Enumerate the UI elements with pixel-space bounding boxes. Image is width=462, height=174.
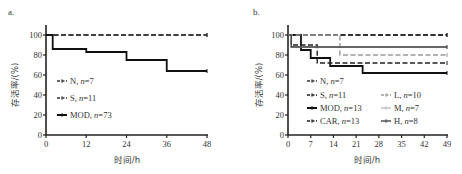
x-tick-label: 12: [82, 139, 91, 149]
legend-label: M, n=7: [394, 103, 419, 113]
legend-label: H, n=8: [394, 116, 418, 126]
y-tick-label: 0: [38, 130, 42, 140]
y-tick-label: 100: [271, 30, 284, 40]
x-tick-label: 14: [329, 139, 338, 149]
legend-item-mod: MOD, n=73: [57, 110, 112, 120]
panel-a-xlabel: 时间/h: [114, 155, 140, 165]
y-tick-label: 0: [280, 130, 284, 140]
x-tick-label: 42: [420, 139, 429, 149]
y-tick-label: 60: [276, 70, 285, 80]
panel-b-legend: N, n=7S, n=11MOD, n=13CAR, n=13L, n=10M,…: [307, 76, 421, 126]
legend-item-mod: MOD, n=13: [307, 103, 362, 113]
legend-item-n: N, n=7: [307, 76, 344, 86]
x-tick-label: 0: [44, 139, 48, 149]
x-tick-label: 28: [375, 139, 384, 149]
x-tick-label: 24: [122, 139, 131, 149]
legend-item-m: M, n=7: [381, 103, 419, 113]
x-tick-label: 0: [286, 139, 290, 149]
y-tick-label: 20: [276, 110, 285, 120]
y-tick-label: 80: [34, 50, 43, 60]
y-tick-label: 100: [29, 30, 42, 40]
x-tick-label: 21: [352, 139, 361, 149]
legend-label: MOD, n=13: [320, 103, 362, 113]
panel-a-series: [46, 33, 207, 73]
legend-label: S, n=11: [70, 93, 96, 103]
legend-item-n: N, n=7: [57, 76, 94, 86]
legend-item-s: S, n=11: [57, 93, 96, 103]
panel-b-series: [288, 33, 447, 75]
legend-item-car: CAR, n=13: [307, 116, 359, 126]
panel-a-survival-chart: a. 存活率/(%) 时间/h 012243648020406080100 N,…: [8, 7, 211, 165]
y-tick-label: 80: [276, 50, 285, 60]
x-tick-label: 36: [163, 139, 172, 149]
legend-label: N, n=7: [320, 76, 344, 86]
series-mod-line: [46, 35, 207, 71]
panel-a-axes: 012243648020406080100: [29, 25, 211, 149]
panel-b-survival-chart: b. 存活率/(%) 时间/h 071421283542490204060801…: [253, 7, 451, 165]
series-mod-line: [288, 35, 447, 73]
legend-item-l: L, n=10: [381, 90, 421, 100]
panel-b-y-axis-title: 存活率/(%): [254, 63, 264, 108]
legend-label: L, n=10: [394, 90, 421, 100]
panel-b-xlabel: 时间/h: [354, 155, 380, 165]
y-tick-label: 60: [34, 70, 43, 80]
legend-label: N, n=7: [70, 76, 94, 86]
y-tick-label: 40: [34, 90, 43, 100]
panel-a-legend: N, n=7S, n=11MOD, n=73: [57, 76, 112, 120]
x-tick-label: 35: [397, 139, 406, 149]
panel-b-ylabel: 存活率/(%): [254, 63, 264, 108]
panel-b-label: b.: [253, 7, 260, 17]
x-tick-label: 7: [309, 139, 313, 149]
legend-label: MOD, n=73: [70, 110, 112, 120]
x-tick-label: 49: [443, 139, 452, 149]
legend-label: CAR, n=13: [320, 116, 359, 126]
panel-a-label: a.: [8, 7, 14, 17]
survival-figure: a. 存活率/(%) 时间/h 012243648020406080100 N,…: [0, 0, 462, 174]
legend-item-h: H, n=8: [381, 116, 418, 126]
y-tick-label: 20: [34, 110, 43, 120]
y-tick-label: 40: [276, 90, 285, 100]
legend-item-s: S, n=11: [307, 90, 346, 100]
panel-a-y-axis-title: 存活率/(%): [10, 63, 20, 108]
panel-b-axes: 07142128354249020406080100: [271, 25, 451, 149]
x-tick-label: 48: [203, 139, 212, 149]
legend-label: S, n=11: [320, 90, 346, 100]
panel-a-ylabel: 存活率/(%): [10, 63, 20, 108]
